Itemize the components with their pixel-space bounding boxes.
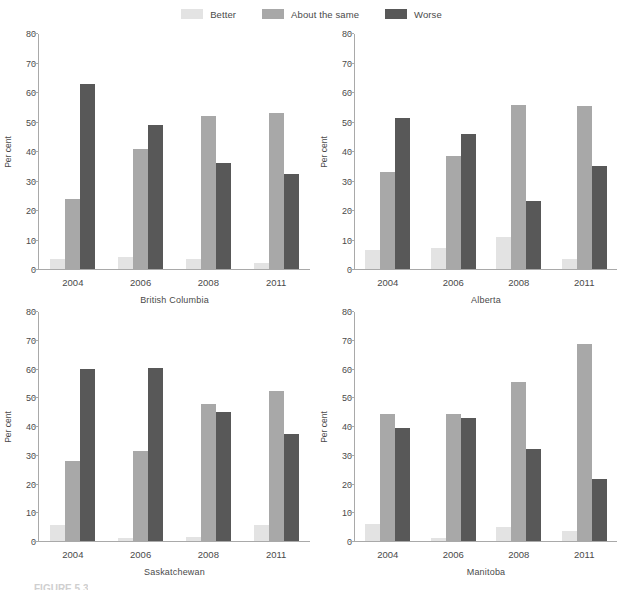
y-tick-mark xyxy=(33,151,38,152)
x-tick-label: 2011 xyxy=(562,277,607,288)
y-tick-mark xyxy=(33,63,38,64)
x-axis-line xyxy=(38,269,310,270)
bar-group xyxy=(50,312,95,541)
y-tick-label: 10 xyxy=(342,236,352,246)
x-tick-label: 2004 xyxy=(365,277,410,288)
bar-worse xyxy=(395,428,410,541)
bar-worse xyxy=(216,163,231,269)
bar-better xyxy=(118,257,133,269)
y-tick-label: 70 xyxy=(26,336,36,346)
bar-worse xyxy=(284,174,299,269)
y-tick-mark xyxy=(33,33,38,34)
bar-about-the-same xyxy=(511,382,526,541)
bar-better xyxy=(496,237,511,269)
y-tick-label: 10 xyxy=(26,236,36,246)
y-tick-mark xyxy=(349,397,354,398)
panel-caption: British Columbia xyxy=(39,295,310,305)
bar-better xyxy=(431,538,446,541)
bar-worse xyxy=(592,166,607,269)
y-tick-labels: 01020304050607080 xyxy=(16,312,38,542)
legend-item-about-the-same: About the same xyxy=(262,9,359,20)
bar-better xyxy=(50,259,65,269)
bar-group xyxy=(254,312,299,541)
bar-about-the-same xyxy=(133,451,148,541)
y-tick-mark xyxy=(33,269,38,270)
axis-area xyxy=(354,312,617,542)
y-tick-mark xyxy=(349,240,354,241)
x-tick-labels: 2004200620082011 xyxy=(355,277,617,288)
x-tick-labels: 2004200620082011 xyxy=(39,277,310,288)
y-tick-labels: 01020304050607080 xyxy=(332,312,354,542)
x-tick-labels: 2004200620082011 xyxy=(39,549,310,560)
x-tick-labels: 2004200620082011 xyxy=(355,549,617,560)
bar-worse xyxy=(395,118,410,269)
y-axis-label: Per cent xyxy=(316,34,332,270)
bar-about-the-same xyxy=(269,391,284,541)
bar-about-the-same xyxy=(380,414,395,541)
y-tick-mark xyxy=(349,151,354,152)
y-tick-label: 30 xyxy=(342,451,352,461)
y-tick-labels: 01020304050607080 xyxy=(332,34,354,270)
legend-label-worse: Worse xyxy=(414,9,442,20)
x-axis-line xyxy=(354,269,617,270)
bar-worse xyxy=(148,368,163,541)
y-tick-mark xyxy=(33,181,38,182)
bar-better xyxy=(365,524,380,541)
legend-item-better: Better xyxy=(181,9,236,20)
bar-group xyxy=(562,34,607,269)
bar-worse xyxy=(526,449,541,541)
legend-swatch-better xyxy=(181,9,203,19)
bar-better xyxy=(431,248,446,269)
bar-better xyxy=(365,250,380,269)
y-tick-label: 40 xyxy=(26,422,36,432)
y-tick-label: 0 xyxy=(31,537,36,547)
bar-group xyxy=(431,312,476,541)
y-tick-label: 30 xyxy=(26,451,36,461)
bar-better xyxy=(186,259,201,269)
y-tick-mark xyxy=(33,512,38,513)
panel-alberta: Per cent 01020304050607080 2004200620082… xyxy=(316,28,623,306)
x-tick-label: 2008 xyxy=(186,277,231,288)
y-tick-mark xyxy=(349,369,354,370)
y-axis-label: Per cent xyxy=(0,34,16,270)
y-tick-mark xyxy=(33,455,38,456)
y-tick-mark xyxy=(33,340,38,341)
bar-better xyxy=(186,537,201,541)
bar-about-the-same xyxy=(201,404,216,541)
y-tick-label: 30 xyxy=(342,177,352,187)
y-tick-mark xyxy=(349,122,354,123)
bar-about-the-same xyxy=(201,116,216,269)
figure-caption: FIGURE 5.3 xyxy=(34,583,88,590)
x-tick-label: 2004 xyxy=(50,277,95,288)
legend-swatch-about-the-same xyxy=(262,9,284,19)
bar-group xyxy=(365,34,410,269)
x-tick-label: 2006 xyxy=(118,277,163,288)
y-tick-mark xyxy=(33,122,38,123)
x-tick-label: 2004 xyxy=(50,549,95,560)
x-tick-label: 2006 xyxy=(118,549,163,560)
bar-worse xyxy=(592,479,607,541)
y-tick-label: 40 xyxy=(26,147,36,157)
y-tick-label: 80 xyxy=(26,29,36,39)
y-tick-label: 60 xyxy=(26,365,36,375)
x-tick-label: 2006 xyxy=(431,549,476,560)
y-tick-label: 20 xyxy=(26,480,36,490)
y-tick-label: 10 xyxy=(26,508,36,518)
y-tick-label: 40 xyxy=(342,147,352,157)
y-tick-mark xyxy=(349,92,354,93)
panel-manitoba: Per cent 01020304050607080 2004200620082… xyxy=(316,306,623,578)
y-tick-label: 70 xyxy=(26,59,36,69)
y-tick-mark xyxy=(33,311,38,312)
bar-group xyxy=(562,312,607,541)
x-tick-label: 2008 xyxy=(496,549,541,560)
x-tick-label: 2011 xyxy=(254,549,299,560)
bar-about-the-same xyxy=(577,344,592,542)
legend-item-worse: Worse xyxy=(385,9,442,20)
bar-worse xyxy=(80,369,95,541)
y-tick-mark xyxy=(33,426,38,427)
bar-about-the-same xyxy=(577,106,592,269)
bar-group xyxy=(365,312,410,541)
y-tick-mark xyxy=(349,484,354,485)
y-tick-mark xyxy=(33,541,38,542)
y-tick-label: 20 xyxy=(342,480,352,490)
